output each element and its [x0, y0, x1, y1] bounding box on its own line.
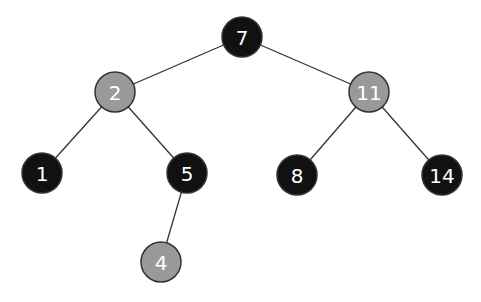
- node-label: 1: [36, 162, 49, 186]
- tree-node-14: 14: [422, 155, 462, 195]
- tree-node-11: 11: [349, 72, 389, 112]
- node-label: 14: [429, 164, 454, 188]
- tree-edges: [42, 37, 442, 262]
- node-label: 5: [181, 162, 194, 186]
- node-label: 2: [109, 81, 122, 105]
- tree-node-8: 8: [277, 155, 317, 195]
- red-black-tree-diagram: 7211158144: [0, 0, 481, 302]
- node-label: 7: [236, 26, 249, 50]
- node-label: 11: [356, 81, 381, 105]
- tree-node-4: 4: [141, 242, 181, 282]
- node-label: 8: [291, 164, 304, 188]
- tree-nodes: 7211158144: [22, 17, 462, 282]
- edge-7-2: [115, 37, 242, 92]
- tree-node-5: 5: [167, 153, 207, 193]
- tree-node-2: 2: [95, 72, 135, 112]
- tree-node-1: 1: [22, 153, 62, 193]
- node-label: 4: [155, 251, 168, 275]
- tree-node-7: 7: [222, 17, 262, 57]
- edge-7-11: [242, 37, 369, 92]
